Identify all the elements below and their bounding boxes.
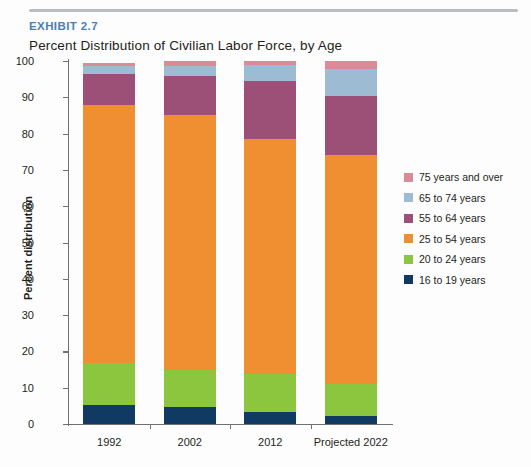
legend-label: 75 years and over	[419, 171, 503, 183]
legend-label: 65 to 74 years	[419, 192, 486, 204]
bar-segment	[164, 66, 216, 76]
bar-segment	[244, 81, 296, 138]
legend-swatch-icon	[404, 275, 413, 284]
y-tick-label: 50	[0, 237, 34, 249]
y-tick-label: 90	[0, 91, 34, 103]
legend-item[interactable]: 25 to 54 years	[404, 229, 503, 250]
legend-swatch-icon	[404, 255, 413, 264]
bar-segment	[325, 384, 377, 416]
y-tick-label: 60	[0, 200, 34, 212]
legend-item[interactable]: 55 to 64 years	[404, 208, 503, 229]
legend-item[interactable]: 75 years and over	[404, 167, 503, 188]
legend-swatch-icon	[404, 193, 413, 202]
x-tick-mark	[150, 424, 151, 429]
top-rule	[29, 9, 518, 12]
y-tick-label: 80	[0, 128, 34, 140]
legend: 75 years and over65 to 74 years55 to 64 …	[404, 167, 503, 290]
bar-segment	[325, 96, 377, 156]
bar-projected-2022	[325, 61, 377, 424]
y-tick-label: 40	[0, 273, 34, 285]
x-tick-label: Projected 2022	[314, 436, 388, 448]
bar-segment	[83, 74, 135, 104]
bar-segment	[83, 405, 135, 424]
bar-segment	[164, 115, 216, 370]
legend-item[interactable]: 65 to 74 years	[404, 188, 503, 209]
legend-item[interactable]: 16 to 19 years	[404, 270, 503, 291]
bar-segment	[325, 69, 377, 95]
bar-segment	[164, 370, 216, 407]
legend-swatch-icon	[404, 173, 413, 182]
bar-segment	[83, 66, 135, 74]
bar-segment	[244, 139, 296, 374]
y-tick-label: 100	[0, 55, 34, 67]
bar-segment	[325, 61, 377, 69]
x-tick-mark	[311, 424, 312, 429]
legend-swatch-icon	[404, 214, 413, 223]
bar-segment	[164, 76, 216, 115]
bar-segment	[244, 65, 296, 81]
bar-2012	[244, 61, 296, 424]
legend-item[interactable]: 20 to 24 years	[404, 249, 503, 270]
bar-segment	[83, 363, 135, 405]
y-tick-label: 0	[0, 418, 34, 430]
y-tick-label: 20	[0, 345, 34, 357]
legend-label: 20 to 24 years	[419, 253, 486, 265]
bar-1992	[83, 63, 135, 424]
bar-segment	[325, 416, 377, 424]
legend-label: 25 to 54 years	[419, 233, 486, 245]
legend-label: 16 to 19 years	[419, 274, 486, 286]
plot-area	[69, 61, 391, 424]
exhibit-label: EXHIBIT 2.7	[29, 20, 98, 32]
y-tick-label: 70	[0, 164, 34, 176]
y-tick-label: 30	[0, 309, 34, 321]
bar-segment	[164, 407, 216, 424]
legend-label: 55 to 64 years	[419, 212, 486, 224]
x-tick-label: 1992	[97, 436, 121, 448]
bar-segment	[244, 412, 296, 424]
y-tick-label: 10	[0, 382, 34, 394]
bar-segment	[325, 155, 377, 384]
bar-segment	[244, 374, 296, 412]
page-title: Percent Distribution of Civilian Labor F…	[29, 38, 342, 53]
x-tick-mark	[230, 424, 231, 429]
bar-segment	[83, 105, 135, 363]
legend-swatch-icon	[404, 234, 413, 243]
x-tick-label: 2012	[258, 436, 282, 448]
bar-2002	[164, 61, 216, 424]
x-tick-label: 2002	[178, 436, 202, 448]
exhibit-figure: EXHIBIT 2.7 Percent Distribution of Civi…	[0, 0, 531, 467]
